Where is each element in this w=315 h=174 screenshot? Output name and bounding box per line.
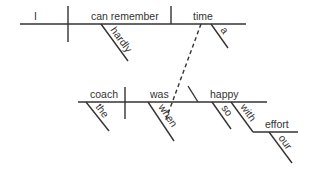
main-subject: I — [34, 10, 37, 22]
sub-subject: coach — [90, 88, 118, 100]
connector-word: when — [156, 101, 181, 129]
preposition: with — [238, 100, 259, 123]
main-verb: can remember — [91, 10, 159, 22]
predicate-adjective: happy — [210, 88, 239, 100]
prep-object-modifier: our — [276, 132, 295, 152]
predicate-adjective-divider — [188, 86, 198, 102]
main-object: time — [193, 10, 213, 22]
sub-verb: was — [149, 88, 169, 100]
subject-modifier: the — [93, 101, 111, 120]
object-modifier: a — [218, 24, 231, 36]
prep-object: effort — [265, 118, 289, 130]
sentence-diagram: I can remember time hardly a coach was h… — [0, 0, 315, 174]
